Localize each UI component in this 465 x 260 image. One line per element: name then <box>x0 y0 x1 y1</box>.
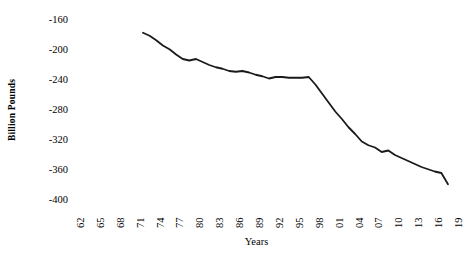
chart-figure: Billion Pounds -160-200-240-280-320-360-… <box>0 0 465 260</box>
data-line-series-0 <box>143 33 448 185</box>
plot-area <box>0 0 465 260</box>
x-axis-title: Years <box>0 236 465 247</box>
